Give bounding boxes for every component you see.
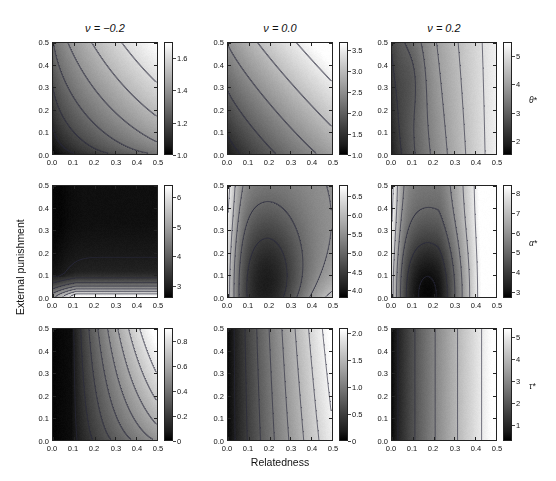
x-tick-2 [434,151,435,154]
x-tick-top-3 [290,186,291,189]
heatmap-plot-row3-col2 [227,328,333,441]
colorbar-tick-3 [173,366,176,367]
colorbar-tick-label-3: 6 [177,193,181,202]
x-tick-2 [434,437,435,440]
x-tick-2 [95,294,96,297]
colorbar-tick-1 [348,414,351,415]
y-tick-3 [53,230,56,231]
x-tick-label-4: 0.4 [471,158,481,167]
y-tick-right-5 [493,186,496,187]
colorbar-tick-2 [348,113,351,114]
y-tick-right-4 [493,208,496,209]
y-tick-2 [392,396,395,397]
y-tick-label-1: 0.1 [32,128,49,137]
panel-row2-col2: 0.00.00.10.10.20.20.30.30.40.40.50.54.04… [227,185,393,298]
colorbar-tick-label-1: 4.5 [352,268,362,277]
y-tick-right-0 [154,440,157,441]
x-tick-label-5: 0.5 [492,301,502,310]
colorbar-tick-1 [348,134,351,135]
y-tick-right-0 [329,440,332,441]
y-tick-right-0 [154,154,157,155]
x-tick-label-4: 0.4 [471,444,481,453]
x-axis-label: Relatedness [251,456,309,468]
y-tick-right-1 [154,132,157,133]
colorbar-tick-label-2: 5 [516,248,520,257]
colorbar-tick-1 [512,272,515,273]
y-tick-label-0: 0.0 [371,294,388,303]
y-tick-3 [392,230,395,231]
y-tick-1 [228,132,231,133]
x-tick-label-2: 0.2 [89,444,99,453]
colorbar-tick-label-5: 8 [516,189,520,198]
heatmap-plot-row2-col3 [391,185,497,298]
y-tick-label-0: 0.0 [371,151,388,160]
heatmap-canvas [228,186,332,297]
y-tick-4 [228,208,231,209]
heatmap-canvas [53,329,157,440]
x-tick-label-3: 0.3 [286,301,296,310]
x-tick-5 [332,437,333,440]
y-tick-0 [53,154,56,155]
colorbar-row1-col3: 2345θ* [503,42,549,155]
colorbar-tick-label-2: 1.4 [177,86,187,95]
colorbar-tick-3 [348,360,351,361]
y-tick-label-5: 0.5 [32,38,49,47]
colorbar-tick-label-1: 0.2 [177,412,187,421]
heatmap-plot-row1-col3 [391,42,497,155]
heatmap-canvas [228,329,332,440]
y-tick-right-5 [329,43,332,44]
x-tick-3 [454,294,455,297]
x-tick-label-2: 0.2 [264,158,274,167]
y-tick-right-5 [154,186,157,187]
colorbar-tick-0 [512,141,515,142]
colorbar-tick-label-1: 3 [516,109,520,118]
x-tick-top-4 [475,186,476,189]
colorbar-tick-3 [512,233,515,234]
x-tick-label-5: 0.5 [492,444,502,453]
y-tick-5 [228,43,231,44]
y-tick-4 [53,65,56,66]
colorbar-axis-label-row2: α* [529,238,537,248]
y-tick-right-0 [329,154,332,155]
y-tick-label-4: 0.4 [207,204,224,213]
y-tick-label-1: 0.1 [32,271,49,280]
colorbar-tick-label-1: 4 [516,268,520,277]
colorbar-tick-label-4: 3.0 [352,67,362,76]
colorbar-tick-2 [348,253,351,254]
x-tick-top-4 [475,43,476,46]
x-tick-top-2 [270,329,271,332]
x-tick-4 [136,151,137,154]
x-tick-top-1 [249,186,250,189]
x-tick-4 [136,437,137,440]
x-tick-3 [115,294,116,297]
colorbar-tick-label-0: 3 [177,282,181,291]
x-tick-label-2: 0.2 [428,301,438,310]
y-tick-right-0 [493,440,496,441]
colorbar-row3-col3: 12345τ* [503,328,549,441]
x-tick-top-3 [115,329,116,332]
x-tick-top-4 [475,329,476,332]
x-tick-4 [311,294,312,297]
colorbar-tick-label-2: 2.0 [352,109,362,118]
y-tick-label-2: 0.2 [371,249,388,258]
y-tick-label-1: 0.1 [371,128,388,137]
y-tick-2 [53,253,56,254]
heatmap-canvas [392,186,496,297]
colorbar-tick-label-3: 1.6 [177,54,187,63]
colorbar-tick-2 [173,391,176,392]
x-tick-top-3 [290,329,291,332]
colorbar-tick-label-0: 0 [352,437,356,446]
x-tick-label-3: 0.3 [450,158,460,167]
y-tick-right-5 [493,43,496,44]
y-tick-label-5: 0.5 [371,38,388,47]
y-tick-label-3: 0.3 [371,226,388,235]
x-tick-top-5 [157,186,158,189]
colorbar-axis-label-row3: τ* [529,381,536,391]
column-title-2: ν = 0.0 [227,22,333,34]
y-tick-label-5: 0.5 [207,324,224,333]
x-tick-label-2: 0.2 [89,301,99,310]
panel-row2-col1: 0.00.00.10.10.20.20.30.30.40.40.50.53456 [52,185,218,298]
colorbar-tick-4 [512,337,515,338]
y-tick-4 [228,351,231,352]
y-tick-label-2: 0.2 [32,106,49,115]
